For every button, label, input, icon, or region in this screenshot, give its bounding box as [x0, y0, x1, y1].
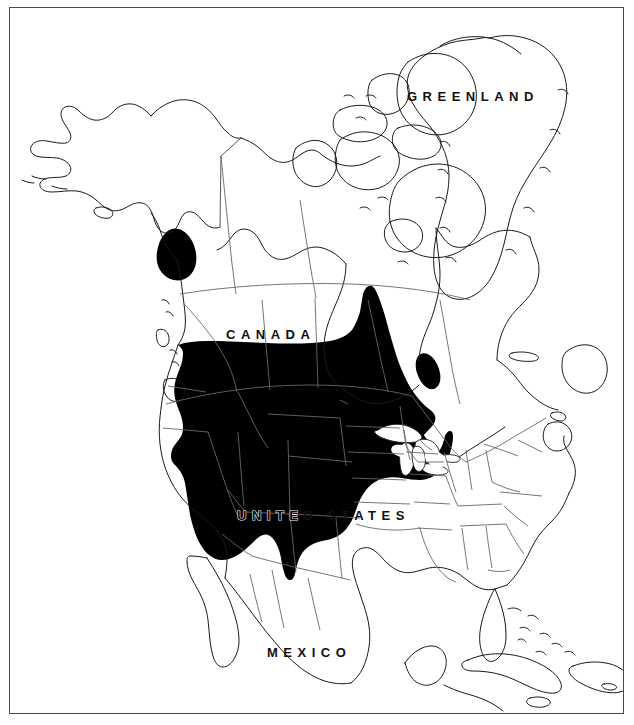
ks-ok-border — [354, 502, 410, 504]
baja-california — [187, 556, 239, 667]
arctic-islets-b — [360, 197, 408, 264]
ok-tx-border — [356, 524, 420, 530]
hudson-bay-east-coast — [419, 228, 440, 362]
mexico-north-border — [252, 556, 350, 580]
ar-la-border — [418, 528, 452, 530]
greenland-east-fjords — [506, 89, 568, 254]
anticosti-island — [509, 352, 538, 361]
canada-arctic-mainland — [217, 229, 346, 264]
nc-sc-border — [504, 506, 528, 526]
pa-ny-border — [484, 444, 518, 456]
haida-gwaii — [156, 329, 169, 346]
mexico-west-coast — [225, 578, 351, 684]
mexico-internal-b — [308, 578, 320, 630]
canada-territorial-border-60n — [180, 283, 470, 300]
kodiak-island — [94, 207, 113, 218]
bahamas-islands — [508, 608, 575, 655]
tx-east-border — [420, 528, 456, 582]
cuba — [462, 654, 562, 693]
banks-island — [293, 140, 337, 186]
label-united-states-light: D STATES — [304, 508, 410, 523]
prince-edward-island — [550, 412, 565, 421]
greenland-west-fjords — [436, 141, 456, 262]
victoria-island — [335, 132, 399, 190]
ontario-quebec-border — [440, 300, 460, 404]
alaska-north-coast — [151, 100, 241, 139]
label-united-states-dark: UNITE — [237, 508, 304, 523]
puerto-rico — [602, 684, 617, 690]
us-atlantic-coast — [507, 493, 569, 585]
fl-ga-border — [488, 570, 510, 572]
ny-ne-border — [518, 440, 542, 452]
alaska-coastline — [31, 104, 220, 233]
florida-peninsula — [480, 589, 506, 661]
mexico-internal-a — [272, 570, 284, 628]
yukon-nwt-border — [221, 156, 236, 294]
label-greenland: GREENLAND — [407, 89, 539, 104]
ky-tn-border — [458, 504, 502, 506]
tn-border-south — [460, 524, 506, 526]
newfoundland — [562, 345, 607, 393]
in-oh-border — [466, 450, 472, 490]
michigan-peninsula-white — [412, 446, 425, 471]
label-canada-light: CANA — [226, 327, 286, 342]
us-gulf-coast — [459, 574, 507, 590]
labrador-coast — [497, 237, 539, 360]
mackenzie-delta-coast — [241, 138, 322, 162]
nc-va-border — [500, 492, 542, 496]
us-canada-border-east — [466, 418, 546, 462]
coronation-gulf — [322, 155, 380, 166]
label-canada: CANADA — [226, 327, 315, 342]
ungava-peninsula — [436, 228, 530, 247]
mo-ar-border — [414, 502, 450, 504]
ms-al-border — [462, 528, 468, 570]
range-shaded-areas — [157, 228, 453, 580]
ga-sc-border — [506, 524, 524, 554]
yucatan-peninsula — [405, 646, 446, 685]
alaska-yukon-border — [220, 138, 241, 227]
label-united-states: UNITED STATES — [237, 508, 410, 523]
nova-scotia — [543, 422, 572, 451]
melville-island — [333, 105, 387, 141]
al-ga-border — [486, 526, 492, 568]
central-america — [444, 685, 503, 711]
gulf-st-lawrence-coast — [497, 360, 558, 410]
aleutian-chain — [22, 176, 67, 189]
hispaniola — [569, 662, 629, 693]
va-wv-md-border — [492, 482, 520, 492]
label-mexico-text: MEXICO — [267, 645, 351, 660]
oh-pa-border — [486, 450, 492, 482]
range-map-figure: GREENLAND CANADA UNITED STATES MEXICO — [0, 0, 634, 725]
axel-heiberg — [368, 74, 409, 115]
inside-passage-islets — [162, 300, 179, 366]
label-canada-dark: DA — [286, 327, 316, 342]
north-america-map-graphic — [0, 0, 634, 725]
jamaica — [527, 697, 551, 707]
devon-island — [392, 125, 441, 159]
label-mexico: MEXICO — [267, 645, 351, 660]
greenland-north-coast — [440, 37, 521, 54]
label-greenland-text: GREENLAND — [407, 89, 539, 104]
st-lawrence-river — [459, 427, 505, 457]
mexico-internal-c — [250, 574, 262, 622]
